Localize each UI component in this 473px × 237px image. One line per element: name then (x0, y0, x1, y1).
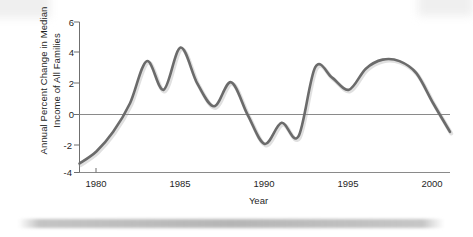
data-series-line-shadow (81, 49, 452, 165)
page-scan-band (18, 219, 444, 228)
